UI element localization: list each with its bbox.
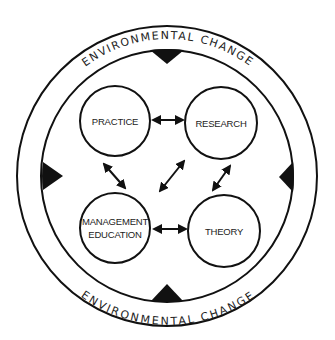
node-label: RESEARCH bbox=[195, 118, 247, 129]
inner-ring bbox=[41, 50, 293, 302]
node-research: RESEARCH bbox=[185, 87, 257, 159]
arrow-research-management bbox=[160, 161, 184, 191]
node-label: PRACTICE bbox=[92, 116, 138, 127]
node-management-education: MANAGEMENT EDUCATION bbox=[80, 193, 150, 263]
triangle-right-icon bbox=[279, 162, 294, 192]
arrow-research-theory bbox=[213, 166, 230, 190]
node-practice: PRACTICE bbox=[80, 86, 150, 156]
triangle-top-icon bbox=[150, 49, 184, 64]
arrow-practice-management bbox=[104, 164, 125, 188]
environmental-change-diagram: ENVIRONMENTAL CHANGE ENVIRONMENTAL CHANG… bbox=[0, 0, 335, 340]
node-theory: THEORY bbox=[188, 195, 260, 267]
triangle-left-icon bbox=[42, 162, 63, 190]
node-label-line-2: EDUCATION bbox=[88, 229, 142, 240]
triangle-bottom-icon bbox=[151, 284, 183, 302]
node-label: THEORY bbox=[205, 226, 244, 237]
node-label-line-1: MANAGEMENT bbox=[82, 216, 148, 227]
